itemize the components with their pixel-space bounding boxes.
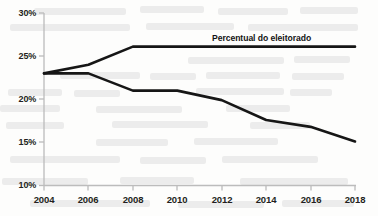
chart-screenshot: 30% 25% 20% 15% 10% 2004 2006 2008 2010 … [0,0,378,216]
y-tick-label: 30% [4,8,36,18]
series-line-percentual-do-eleitorado [44,47,355,74]
series-line-lower [44,73,355,141]
series-annotation-percentual-do-eleitorado: Percentual do eleitorado [212,33,311,43]
x-tick-label: 2016 [291,194,331,205]
x-tick-label: 2014 [246,194,286,205]
x-tick-label: 2004 [24,194,64,205]
chart-plot-area [0,0,378,216]
y-axis-ticks [39,13,44,186]
x-tick-label: 2008 [113,194,153,205]
x-axis-ticks [44,186,355,191]
x-tick-label: 2006 [68,194,108,205]
y-tick-label: 20% [4,94,36,104]
y-tick-label: 10% [4,180,36,190]
y-tick-label: 25% [4,51,36,61]
x-tick-label: 2010 [157,194,197,205]
x-tick-label: 2012 [202,194,242,205]
x-tick-label: 2018 [335,194,375,205]
y-tick-label: 15% [4,137,36,147]
